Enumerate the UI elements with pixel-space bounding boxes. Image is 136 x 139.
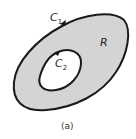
figure-caption: (a) bbox=[61, 121, 74, 131]
region-diagram: C1 R C2 (a) bbox=[0, 0, 136, 139]
outer-curve-label: C1 bbox=[50, 11, 62, 26]
region-label: R bbox=[100, 36, 108, 49]
